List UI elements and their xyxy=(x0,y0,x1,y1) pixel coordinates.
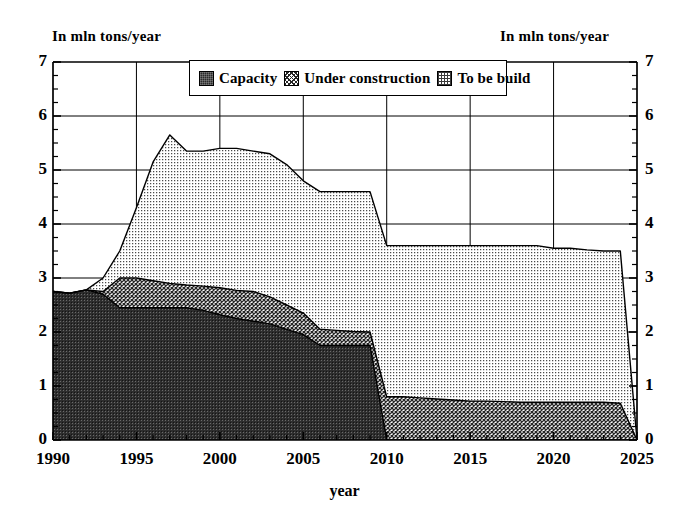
y-tick-left-5: 5 xyxy=(25,159,47,179)
y-tick-left-1: 1 xyxy=(25,375,47,395)
y-tick-left-4: 4 xyxy=(25,213,47,233)
x-tick-2005: 2005 xyxy=(275,449,331,469)
stacked-areas xyxy=(53,135,637,440)
y-tick-left-6: 6 xyxy=(25,105,47,125)
chart-container: In mln tons/year In mln tons/year xyxy=(0,0,689,520)
x-tick-1990: 1990 xyxy=(25,449,81,469)
legend-label-under-construction: Under construction xyxy=(304,70,430,87)
x-tick-2025: 2025 xyxy=(609,449,665,469)
y-tick-left-7: 7 xyxy=(25,51,47,71)
legend-item-capacity: Capacity xyxy=(199,70,277,87)
y-tick-right-7: 7 xyxy=(645,51,667,71)
y-tick-right-0: 0 xyxy=(645,429,667,449)
y-tick-left-3: 3 xyxy=(25,267,47,287)
y-tick-right-3: 3 xyxy=(645,267,667,287)
legend-item-to-be-build: To be build xyxy=(437,70,530,87)
x-tick-2015: 2015 xyxy=(442,449,498,469)
to-be-build-swatch xyxy=(437,71,452,86)
x-tick-2020: 2020 xyxy=(526,449,582,469)
legend-label-to-be-build: To be build xyxy=(457,70,530,87)
legend-label-capacity: Capacity xyxy=(219,70,277,87)
x-tick-2010: 2010 xyxy=(359,449,415,469)
x-axis-title: year xyxy=(0,482,689,500)
y-tick-left-0: 0 xyxy=(25,429,47,449)
y-tick-right-2: 2 xyxy=(645,321,667,341)
y-tick-right-4: 4 xyxy=(645,213,667,233)
capacity-swatch xyxy=(199,71,214,86)
x-tick-2000: 2000 xyxy=(192,449,248,469)
x-tick-1995: 1995 xyxy=(108,449,164,469)
y-tick-left-2: 2 xyxy=(25,321,47,341)
legend-item-under-construction: Under construction xyxy=(284,70,430,87)
y-tick-right-1: 1 xyxy=(645,375,667,395)
chart-legend: Capacity Under construction To be build xyxy=(189,60,507,96)
under-construction-swatch xyxy=(284,71,299,86)
y-tick-right-6: 6 xyxy=(645,105,667,125)
y-tick-right-5: 5 xyxy=(645,159,667,179)
